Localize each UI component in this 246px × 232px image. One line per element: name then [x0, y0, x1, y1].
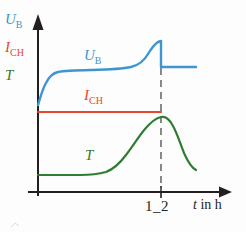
curve-label-charging-current: ICH — [84, 87, 103, 106]
curve-label-charging-current-subscript: CH — [89, 95, 103, 106]
curve-label-temperature-symbol: T — [85, 147, 93, 163]
x-axis-tick-label: 1_2 — [145, 198, 169, 215]
y-axis-label-group: UB ICH T — [5, 8, 45, 86]
y-axis-label-voltage-symbol: U — [5, 11, 16, 27]
y-axis-label-voltage-subscript: B — [16, 19, 23, 30]
x-axis-caption: t in h — [193, 197, 222, 213]
corner-artifact-mark — [10, 222, 24, 228]
x-axis-arrowhead — [219, 187, 232, 198]
x-axis-variable: t — [193, 197, 197, 212]
temperature-curve — [38, 117, 196, 175]
y-axis-label-voltage: UB — [5, 8, 45, 36]
y-axis-label-current: ICH — [5, 36, 45, 64]
curve-label-battery-voltage-symbol: U — [84, 47, 95, 63]
y-axis-label-temperature-symbol: T — [5, 67, 13, 83]
x-axis-unit: in h — [200, 197, 221, 212]
diagram-canvas: UB ICH T UB ICH T 1_2 t in h — [0, 0, 246, 232]
battery-voltage-curve — [38, 41, 196, 105]
curve-label-temperature: T — [85, 147, 93, 164]
curve-label-battery-voltage: UB — [84, 47, 102, 66]
y-axis-label-current-subscript: CH — [10, 47, 24, 58]
curve-label-battery-voltage-subscript: B — [95, 55, 102, 66]
y-axis-label-temperature: T — [5, 64, 45, 86]
